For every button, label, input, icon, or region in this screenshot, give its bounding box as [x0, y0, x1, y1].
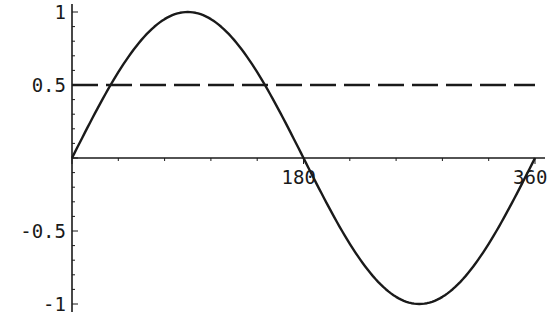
y-tick-label: -0.5	[20, 220, 66, 242]
sine-chart: 10.5-0.5-1180360	[0, 0, 548, 334]
y-tick-label: -1	[43, 293, 66, 315]
x-tick-label: 180	[282, 166, 316, 188]
y-tick-label: 1	[55, 1, 66, 23]
y-tick-label: 0.5	[32, 74, 66, 96]
